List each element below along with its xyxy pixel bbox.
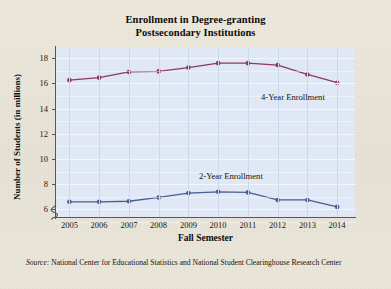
gridline-vertical xyxy=(278,48,279,217)
y-axis-tick xyxy=(52,159,56,160)
y-axis-ticks xyxy=(51,0,56,289)
plot-area xyxy=(56,48,355,217)
series-annotation-2-year: 2-Year Enrollment xyxy=(199,171,263,181)
gridline-vertical xyxy=(129,48,130,217)
vertical-gridlines xyxy=(56,48,355,217)
y-axis-tick-label: 16 xyxy=(40,78,49,88)
y-axis-tick-label: 18 xyxy=(40,53,49,63)
source-text: National Center for Educational Statisti… xyxy=(51,258,341,267)
x-axis-tick-label: 2007 xyxy=(120,220,137,230)
y-axis-tick-labels: 681012141618 xyxy=(0,0,48,289)
y-axis-tick xyxy=(52,83,56,84)
gridline-vertical xyxy=(248,48,249,217)
chart-title-line-2: Postsecondary Institutions xyxy=(0,27,391,40)
chart-title-line-1: Enrollment in Degree-granting xyxy=(0,14,391,27)
x-axis-tick-label: 2014 xyxy=(329,220,346,230)
chart-figure: Enrollment in Degree-granting Postsecond… xyxy=(0,0,391,289)
x-axis-tick-label: 2013 xyxy=(299,220,316,230)
x-axis-tick-label: 2009 xyxy=(180,220,197,230)
gridline-vertical xyxy=(99,48,100,217)
gridline-vertical xyxy=(188,48,189,217)
gridline-vertical xyxy=(69,48,70,217)
y-axis-tick-label: 14 xyxy=(40,104,49,114)
x-axis-tick-label: 2010 xyxy=(210,220,227,230)
gridline-vertical xyxy=(307,48,308,217)
y-axis-title: Number of Students (in millions) xyxy=(12,57,22,217)
y-axis-tick xyxy=(52,134,56,135)
y-axis-tick xyxy=(52,109,56,110)
y-axis-tick xyxy=(52,58,56,59)
axis-break-icon xyxy=(48,198,64,220)
chart-title: Enrollment in Degree-granting Postsecond… xyxy=(0,14,391,39)
x-axis-tick-label: 2006 xyxy=(91,220,108,230)
y-axis-tick-label: 12 xyxy=(40,129,49,139)
y-axis-tick xyxy=(52,184,56,185)
source-note: Source: National Center for Educational … xyxy=(26,258,381,267)
x-axis-title: Fall Semester xyxy=(56,233,355,243)
y-axis-tick-label: 8 xyxy=(44,179,48,189)
x-axis-tick-label: 2005 xyxy=(61,220,78,230)
x-axis-tick-label: 2011 xyxy=(240,220,257,230)
x-axis-tick-label: 2012 xyxy=(269,220,286,230)
gridline-vertical xyxy=(218,48,219,217)
y-axis-tick-label: 10 xyxy=(40,154,49,164)
gridline-vertical xyxy=(337,48,338,217)
x-axis-line xyxy=(55,217,356,218)
series-annotation-4-year: 4-Year Enrollment xyxy=(261,92,325,102)
gridline-vertical xyxy=(159,48,160,217)
x-axis-tick-label: 2008 xyxy=(150,220,167,230)
source-label: Source: xyxy=(26,258,49,267)
